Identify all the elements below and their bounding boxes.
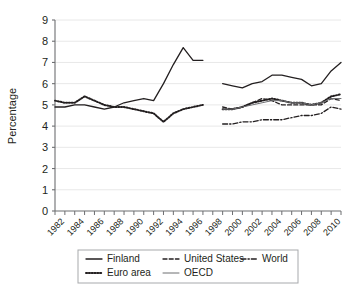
x-tick-label: 2004: [262, 216, 283, 237]
y-axis-tick-labels: 0123456789: [42, 14, 48, 217]
x-tick-label: 1996: [183, 216, 204, 237]
y-tick-label: 3: [42, 141, 48, 153]
x-axis-tick-labels: 1982198419861988199019921994199619982000…: [45, 216, 342, 237]
series-line-finland: [55, 48, 203, 110]
y-tick-label: 9: [42, 14, 48, 26]
x-tick-label: 1994: [163, 216, 184, 237]
x-tick-label: 2002: [242, 216, 263, 237]
y-axis-label: Percentage: [6, 88, 18, 144]
y-tick-label: 1: [42, 184, 48, 196]
x-tick-label: 1998: [203, 216, 224, 237]
x-tick-label: 1984: [65, 216, 86, 237]
data-series-layer: [55, 48, 341, 124]
series-line-euro-area: [55, 96, 203, 121]
y-tick-label: 0: [42, 205, 48, 217]
x-tick-label: 1986: [84, 216, 105, 237]
legend-label-united-states: United States: [184, 253, 244, 264]
x-tick-label: 1988: [104, 216, 125, 237]
x-axis-ticks: [55, 211, 341, 215]
x-tick-label: 2008: [301, 216, 322, 237]
y-tick-label: 6: [42, 78, 48, 90]
y-tick-label: 8: [42, 35, 48, 47]
y-tick-label: 7: [42, 56, 48, 68]
legend-label-euro-area: Euro area: [107, 267, 151, 278]
x-tick-label: 1990: [124, 216, 145, 237]
y-tick-label: 5: [42, 99, 48, 111]
legend-label-finland: Finland: [107, 253, 140, 264]
x-tick-label: 2000: [223, 216, 244, 237]
chart-legend: FinlandUnited StatesWorldEuro areaOECD: [78, 250, 298, 283]
legend-label-world: World: [262, 253, 288, 264]
x-tick-label: 1992: [144, 216, 165, 237]
y-tick-label: 4: [42, 120, 48, 132]
x-tick-label: 2010: [321, 216, 342, 237]
series-line-world: [223, 107, 341, 124]
legend-label-oecd: OECD: [184, 267, 213, 278]
chart-figure: 0123456789 19821984198619881990199219941…: [0, 0, 357, 292]
y-tick-label: 2: [42, 163, 48, 175]
x-tick-label: 2006: [282, 216, 303, 237]
line-chart: 0123456789 19821984198619881990199219941…: [0, 0, 357, 292]
x-tick-label: 1982: [45, 216, 66, 237]
